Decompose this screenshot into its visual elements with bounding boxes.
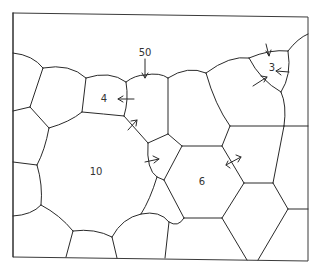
grain-network — [0, 0, 323, 270]
grain-4-label: 4 — [101, 93, 107, 104]
label-50: 50 — [139, 47, 152, 58]
grain-3-label: 3 — [269, 62, 275, 73]
grain-6-label: 6 — [199, 176, 205, 187]
grain-boundary-diagram: 10 6 4 3 50 — [0, 0, 323, 270]
grain-10-label: 10 — [90, 166, 103, 177]
